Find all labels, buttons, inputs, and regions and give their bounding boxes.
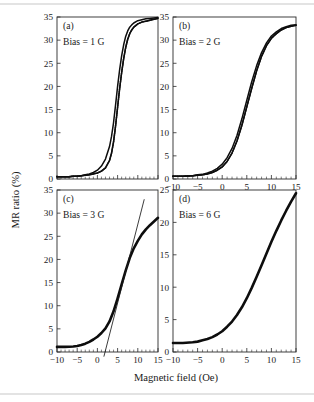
y-tick-label: 35 [44, 12, 54, 22]
y-tick-label: 20 [44, 82, 54, 92]
panel-tag: (d) [179, 193, 190, 205]
x-tick-label: 0 [95, 355, 100, 365]
y-tick-label: 25 [44, 232, 54, 242]
y-tick-label: 0 [48, 174, 53, 184]
y-tick-label: 5 [48, 151, 53, 161]
y-tick-label: 25 [160, 185, 170, 195]
y-axis-title: MR ratio (%) [10, 171, 22, 229]
figure-container: MR ratio (%) Magnetic field (Oe) 0510152… [0, 0, 314, 402]
y-tick-label: 5 [164, 315, 169, 325]
y-tick-label: 10 [160, 128, 170, 138]
y-tick-label: 5 [48, 324, 53, 334]
panel-tag: (c) [63, 193, 74, 205]
y-tick-label: 20 [160, 218, 170, 228]
y-tick-label: 15 [160, 105, 170, 115]
y-tick-label: 15 [160, 250, 170, 260]
x-axis-title: Magnetic field (Oe) [134, 372, 219, 384]
x-tick-label: 5 [245, 355, 250, 365]
x-tick-label: 15 [291, 355, 301, 365]
y-tick-label: 20 [44, 255, 54, 265]
x-tick-label: 5 [115, 355, 120, 365]
x-tick-label: −5 [193, 355, 203, 365]
x-tick-label: −10 [166, 355, 181, 365]
figure-svg: MR ratio (%) Magnetic field (Oe) 0510152… [0, 0, 314, 402]
y-tick-label: 20 [160, 82, 170, 92]
y-tick-label: 35 [160, 12, 170, 22]
x-tick-label: 10 [133, 355, 143, 365]
y-tick-label: 35 [44, 185, 54, 195]
y-tick-label: 25 [44, 59, 54, 69]
y-tick-label: 25 [160, 59, 170, 69]
y-tick-label: 30 [160, 35, 170, 45]
y-tick-label: 10 [44, 301, 54, 311]
y-tick-label: 30 [44, 35, 54, 45]
panel-tag: (a) [63, 20, 74, 32]
panel-annotation: Bias = 2 G [179, 36, 220, 47]
x-tick-label: 10 [267, 355, 277, 365]
x-tick-label: 15 [153, 355, 163, 365]
y-tick-label: 10 [160, 283, 170, 293]
x-tick-label: 0 [220, 355, 225, 365]
x-tick-label: −5 [72, 355, 82, 365]
x-tick-label: −10 [50, 355, 65, 365]
y-tick-label: 5 [164, 151, 169, 161]
y-tick-label: 15 [44, 105, 54, 115]
panel-annotation: Bias = 3 G [63, 209, 104, 220]
panel-tag: (b) [179, 20, 190, 32]
panel-annotation: Bias = 1 G [63, 36, 104, 47]
y-tick-label: 10 [44, 128, 54, 138]
y-tick-label: 15 [44, 278, 54, 288]
panel-annotation: Bias = 6 G [179, 209, 220, 220]
y-tick-label: 30 [44, 208, 54, 218]
